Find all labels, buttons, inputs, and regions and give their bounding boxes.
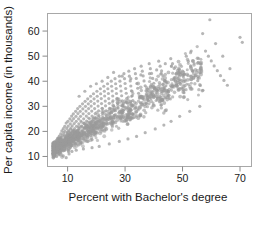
data-point [76, 112, 79, 115]
data-point [74, 141, 77, 144]
data-point [95, 82, 98, 85]
data-point [103, 94, 106, 97]
data-point [103, 90, 106, 93]
data-point [158, 81, 161, 84]
data-point [146, 88, 150, 92]
data-point [196, 45, 199, 48]
data-point [90, 109, 93, 112]
data-point [127, 70, 130, 73]
data-point [126, 122, 129, 125]
data-point [129, 84, 132, 87]
data-point [191, 59, 195, 63]
data-point [123, 77, 126, 80]
data-point [171, 72, 174, 75]
data-point [166, 81, 170, 85]
data-point [89, 100, 92, 103]
data-point [110, 80, 113, 83]
data-point [143, 102, 147, 106]
data-point [142, 79, 145, 82]
data-point [62, 148, 66, 152]
data-point [59, 150, 63, 154]
x-tick-label: 30 [119, 172, 131, 184]
y-tick-label: 20 [28, 125, 40, 137]
data-point [96, 95, 99, 98]
data-point [174, 65, 177, 68]
data-point [112, 71, 115, 74]
data-point [222, 79, 225, 82]
data-point [52, 144, 55, 147]
data-point [82, 117, 85, 120]
data-point [142, 115, 146, 119]
data-point [101, 128, 104, 131]
data-point [188, 110, 191, 113]
data-point [139, 85, 143, 89]
data-point [183, 78, 186, 81]
data-point [82, 135, 85, 138]
data-point [139, 73, 142, 76]
data-point [89, 85, 92, 88]
data-point [155, 78, 159, 82]
data-point [121, 113, 124, 116]
data-point [182, 96, 186, 100]
data-point [238, 36, 241, 39]
data-point [152, 104, 155, 107]
data-point [219, 74, 222, 77]
data-point [102, 124, 105, 127]
data-point [104, 104, 107, 107]
data-point [124, 113, 128, 117]
data-point [101, 118, 105, 122]
data-point [117, 114, 120, 117]
data-point [120, 94, 123, 97]
data-point [76, 129, 80, 133]
data-point [93, 107, 96, 110]
data-point [137, 92, 140, 95]
data-point [84, 100, 87, 103]
data-point [135, 102, 138, 105]
data-point [149, 67, 152, 70]
data-point [178, 115, 181, 118]
data-point [118, 100, 122, 104]
data-point [174, 83, 178, 87]
y-tick-label: 50 [28, 50, 40, 62]
data-point [163, 76, 167, 80]
x-axis-label: Percent with Bachelor's degree [69, 191, 228, 203]
data-point [161, 99, 164, 102]
data-point [135, 77, 138, 80]
data-point [110, 109, 113, 112]
data-point [104, 99, 107, 102]
data-point [155, 68, 158, 71]
data-point [79, 110, 82, 113]
data-point [197, 88, 200, 91]
data-point [199, 58, 202, 61]
data-point [106, 82, 109, 85]
data-point [198, 83, 202, 87]
data-point [144, 131, 147, 134]
data-point [123, 82, 126, 85]
data-point [134, 105, 137, 108]
data-point [124, 87, 127, 90]
data-point [72, 117, 75, 120]
data-point [198, 105, 201, 108]
data-point [75, 120, 78, 123]
data-point [184, 52, 187, 55]
data-point [148, 62, 151, 65]
data-point [141, 70, 144, 73]
data-point [177, 60, 181, 64]
data-point [111, 121, 115, 125]
data-point [89, 95, 92, 98]
data-point [156, 109, 159, 112]
data-point [159, 65, 162, 68]
data-point [107, 97, 110, 100]
data-point [65, 136, 68, 139]
data-point [170, 65, 173, 68]
data-point [53, 141, 56, 144]
data-point [127, 95, 130, 98]
data-point [130, 95, 133, 98]
data-point [128, 115, 132, 119]
data-point [155, 99, 158, 102]
data-point [129, 108, 132, 111]
data-point [213, 64, 216, 67]
data-point [182, 88, 185, 91]
data-point [92, 97, 95, 100]
data-point [160, 106, 163, 109]
